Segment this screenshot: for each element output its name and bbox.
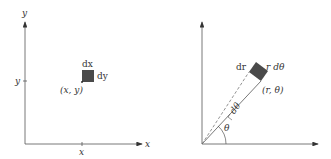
dr-label: dr xyxy=(236,62,247,72)
cartesian-diagram: y x y x dx dy (x, y) xyxy=(14,8,150,157)
dtheta-bracket xyxy=(228,114,232,120)
area-element xyxy=(82,70,94,82)
rdtheta-label: r dθ xyxy=(266,62,285,72)
polar-diagram: θ dθ dr r dθ (r, θ) xyxy=(202,22,318,144)
dx-label: dx xyxy=(82,59,93,69)
theta-label: θ xyxy=(224,123,230,133)
polar-point-label: (r, θ) xyxy=(262,85,284,95)
y-axis-label: y xyxy=(21,8,28,18)
x-tick-label: x xyxy=(79,147,84,157)
radius-dashed-line xyxy=(202,72,249,144)
x-axis-label: x xyxy=(145,139,150,149)
y-tick-label: y xyxy=(14,76,21,86)
diagram-canvas: y x y x dx dy (x, y) θ dθ dr r dθ (r, θ) xyxy=(0,0,331,159)
point-marker xyxy=(81,81,83,83)
dy-label: dy xyxy=(97,71,109,81)
point-label: (x, y) xyxy=(60,85,83,95)
